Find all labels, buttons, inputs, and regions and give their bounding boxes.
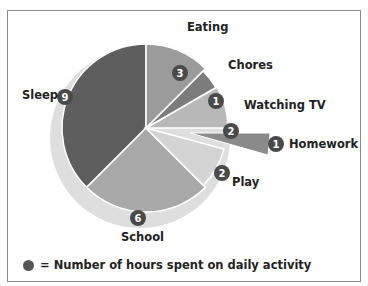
label-watching-tv: Watching TV — [244, 98, 326, 112]
svg-text:3: 3 — [177, 68, 184, 79]
label-school: School — [121, 230, 164, 244]
badge-homework: 1 — [268, 136, 284, 152]
label-play: Play — [232, 175, 260, 189]
svg-text:2: 2 — [219, 168, 226, 179]
badge-eating: 3 — [172, 65, 188, 81]
badge-play: 2 — [214, 165, 230, 181]
pie-chart: 3 1 2 1 2 6 9 Eating Chores Watching TV … — [0, 0, 368, 286]
legend-text: = Number of hours spent on daily activit… — [40, 258, 311, 272]
legend-dot-icon — [23, 260, 34, 271]
svg-text:2: 2 — [228, 126, 235, 137]
svg-text:9: 9 — [62, 92, 69, 103]
label-eating: Eating — [187, 20, 228, 34]
badge-sleep: 9 — [57, 89, 73, 105]
label-sleep: Sleep — [22, 88, 58, 102]
badge-watching-tv: 2 — [223, 123, 239, 139]
legend: = Number of hours spent on daily activit… — [23, 258, 311, 272]
label-chores: Chores — [228, 58, 273, 72]
badge-chores: 1 — [208, 93, 224, 109]
label-homework: Homework — [289, 137, 359, 151]
badge-school: 6 — [130, 210, 146, 226]
svg-text:1: 1 — [273, 139, 280, 150]
svg-text:6: 6 — [135, 213, 142, 224]
svg-text:1: 1 — [213, 96, 220, 107]
